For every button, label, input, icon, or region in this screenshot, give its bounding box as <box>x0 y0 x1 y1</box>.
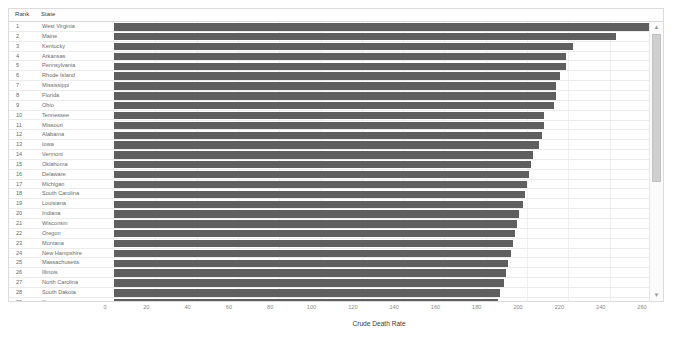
row-state-name: Alabama <box>42 131 64 137</box>
row-rank: 22 <box>16 230 22 236</box>
table-row[interactable]: 13Iowa <box>9 140 114 150</box>
row-separator <box>114 169 649 170</box>
bar[interactable] <box>114 250 511 257</box>
bar[interactable] <box>114 92 556 99</box>
table-row[interactable]: 29Kansas <box>9 298 114 301</box>
row-rank: 23 <box>16 240 22 246</box>
row-rank: 10 <box>16 112 22 118</box>
bar[interactable] <box>114 63 566 70</box>
vertical-scrollbar[interactable]: ▲ ▼ <box>649 22 663 301</box>
bar[interactable] <box>114 82 556 89</box>
table-row[interactable]: 3Kentucky <box>9 42 114 52</box>
row-state-name: Vermont <box>42 151 63 157</box>
table-row[interactable]: 6Rhode Island <box>9 71 114 81</box>
row-rank: 4 <box>16 53 19 59</box>
bar[interactable] <box>114 141 539 148</box>
row-rank: 18 <box>16 190 22 196</box>
row-rank: 29 <box>16 299 22 301</box>
bar[interactable] <box>114 220 517 227</box>
table-row[interactable]: 23Montana <box>9 239 114 249</box>
bar-plot-area <box>114 22 649 301</box>
bar[interactable] <box>114 102 554 109</box>
table-row[interactable]: 11Missouri <box>9 121 114 131</box>
bar[interactable] <box>114 279 504 286</box>
row-state-name: Kentucky <box>42 43 65 49</box>
table-row[interactable]: 10Tennessee <box>9 111 114 121</box>
x-axis: Crude Death Rate 02040608010012014016018… <box>105 304 653 344</box>
row-state-name: South Dakota <box>42 289 76 295</box>
x-axis-tick-label: 100 <box>307 304 316 310</box>
scroll-down-arrow-icon[interactable]: ▼ <box>650 290 663 301</box>
table-row[interactable]: 16Delaware <box>9 170 114 180</box>
bar[interactable] <box>114 171 529 178</box>
table-row[interactable]: 17Michigan <box>9 180 114 190</box>
row-state-name: Wisconsin <box>42 220 68 226</box>
table-row[interactable]: 26Illinois <box>9 268 114 278</box>
bar[interactable] <box>114 191 525 198</box>
x-axis-tick-label: 80 <box>267 304 273 310</box>
row-separator <box>114 179 649 180</box>
x-axis-tick-label: 160 <box>431 304 440 310</box>
row-state-name: Michigan <box>42 181 64 187</box>
bar[interactable] <box>114 72 560 79</box>
x-axis-title: Crude Death Rate <box>105 320 653 327</box>
row-state-name: Ohio <box>42 102 54 108</box>
table-row[interactable]: 15Oklahoma <box>9 160 114 170</box>
table-row[interactable]: 22Oregon <box>9 229 114 239</box>
chart-panel: Rank State 1West Virginia2Maine3Kentucky… <box>8 8 664 302</box>
bar[interactable] <box>114 181 527 188</box>
bar[interactable] <box>114 289 500 296</box>
row-separator <box>114 80 649 81</box>
table-row[interactable]: 20Indiana <box>9 209 114 219</box>
bar[interactable] <box>114 151 533 158</box>
bar[interactable] <box>114 23 649 30</box>
row-state-name: Florida <box>42 92 59 98</box>
bar[interactable] <box>114 210 519 217</box>
table-row[interactable]: 18South Carolina <box>9 189 114 199</box>
table-row[interactable]: 24New Hampshire <box>9 249 114 259</box>
table-row[interactable]: 5Pennsylvania <box>9 61 114 71</box>
row-separator <box>114 139 649 140</box>
x-axis-tick-label: 180 <box>472 304 481 310</box>
bar[interactable] <box>114 269 506 276</box>
table-row[interactable]: 8Florida <box>9 91 114 101</box>
bar[interactable] <box>114 132 542 139</box>
row-separator <box>114 248 649 249</box>
bar[interactable] <box>114 112 544 119</box>
x-axis-tick-label: 20 <box>143 304 149 310</box>
row-state-name: Mississippi <box>42 82 69 88</box>
bar[interactable] <box>114 43 573 50</box>
x-axis-tick-label: 60 <box>226 304 232 310</box>
bar[interactable] <box>114 53 566 60</box>
row-rank: 27 <box>16 279 22 285</box>
bar[interactable] <box>114 260 508 267</box>
table-row[interactable]: 14Vermont <box>9 150 114 160</box>
table-row[interactable]: 2Maine <box>9 32 114 42</box>
gridline <box>610 22 611 301</box>
table-row[interactable]: 1West Virginia <box>9 22 114 32</box>
table-row[interactable]: 9Ohio <box>9 101 114 111</box>
scrollbar-thumb[interactable] <box>652 34 661 182</box>
row-separator <box>114 100 649 101</box>
row-separator <box>114 198 649 199</box>
bar[interactable] <box>114 299 498 301</box>
bar[interactable] <box>114 161 531 168</box>
table-row[interactable]: 21Wisconsin <box>9 219 114 229</box>
row-rank: 24 <box>16 250 22 256</box>
bar[interactable] <box>114 33 616 40</box>
row-separator <box>114 238 649 239</box>
table-row[interactable]: 7Mississippi <box>9 81 114 91</box>
table-row[interactable]: 4Arkansas <box>9 52 114 62</box>
table-row[interactable]: 12Alabama <box>9 130 114 140</box>
table-row[interactable]: 19Louisiana <box>9 199 114 209</box>
scroll-up-arrow-icon[interactable]: ▲ <box>650 22 663 33</box>
table-row[interactable]: 27North Carolina <box>9 278 114 288</box>
bar[interactable] <box>114 201 523 208</box>
row-rank: 11 <box>16 122 22 128</box>
bar[interactable] <box>114 230 515 237</box>
table-row[interactable]: 28South Dakota <box>9 288 114 298</box>
bar[interactable] <box>114 240 513 247</box>
table-row[interactable]: 25Massachusetts <box>9 258 114 268</box>
bar[interactable] <box>114 122 544 129</box>
row-rank: 8 <box>16 92 19 98</box>
